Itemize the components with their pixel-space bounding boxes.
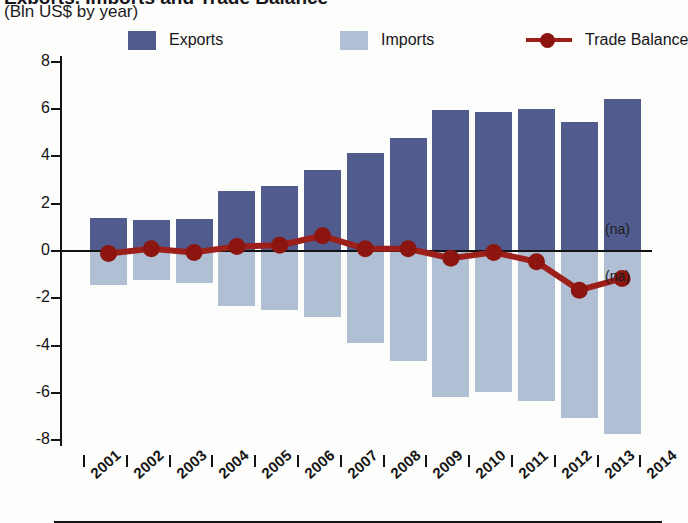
trade-balance-line-layer xyxy=(60,56,660,456)
y-axis-tick-label: 6 xyxy=(12,102,50,114)
x-axis: 2001200220032004200520062007200820092010… xyxy=(54,455,662,506)
legend-item-imports[interactable]: Imports xyxy=(340,28,434,52)
y-axis-tick xyxy=(51,392,60,394)
x-axis-tick xyxy=(425,455,427,467)
trade-balance-point-2005 xyxy=(271,237,288,254)
trade-balance-point-2001 xyxy=(100,245,117,262)
x-axis-tick xyxy=(383,455,385,467)
trade-balance-point-2007 xyxy=(357,240,374,257)
y-axis-tick-label: -4 xyxy=(12,339,50,351)
legend-label: Trade Balance xyxy=(585,31,688,49)
legend-label: Imports xyxy=(381,31,434,49)
square-swatch-icon xyxy=(128,31,156,50)
y-axis-tick-label: 0 xyxy=(12,244,50,256)
chart-legend: ExportsImportsTrade Balance xyxy=(128,28,658,52)
square-swatch-icon xyxy=(340,31,368,50)
x-axis-tick xyxy=(211,455,213,467)
y-axis-tick-label: 4 xyxy=(12,149,50,161)
y-axis-tick xyxy=(51,203,60,205)
y-axis-tick xyxy=(51,61,60,63)
trade-balance-point-2011 xyxy=(528,253,545,270)
y-axis-tick xyxy=(51,155,60,157)
x-axis-tick xyxy=(169,455,171,467)
trade-balance-point-2004 xyxy=(228,238,245,255)
y-axis-tick-label: -8 xyxy=(12,433,50,445)
na-imports: (na) xyxy=(605,268,630,284)
plot-area: 86420-2-4-6-8(na)(na) xyxy=(60,56,596,446)
trade-balance-point-2010 xyxy=(485,244,502,261)
trade-balance-point-2002 xyxy=(143,240,160,257)
x-axis-tick xyxy=(254,455,256,467)
x-axis-tick xyxy=(554,455,556,467)
trade-balance-point-2003 xyxy=(186,244,203,261)
y-axis-tick xyxy=(51,108,60,110)
x-axis-tick xyxy=(126,455,128,467)
x-axis-tick xyxy=(511,455,513,467)
chart-subtitle: (Bln US$ by year) xyxy=(4,2,138,22)
x-axis-tick xyxy=(639,455,641,467)
y-axis-tick-label: 8 xyxy=(12,55,50,67)
x-axis-tick xyxy=(297,455,299,467)
legend-item-exports[interactable]: Exports xyxy=(128,28,223,52)
y-axis-tick-label: -2 xyxy=(12,291,50,303)
trade-balance-point-2008 xyxy=(400,240,417,257)
trade-balance-point-2009 xyxy=(442,250,459,267)
line-marker-icon xyxy=(526,28,572,52)
y-axis-tick-label: 2 xyxy=(12,197,50,209)
na-exports: (na) xyxy=(605,221,630,237)
x-axis-tick xyxy=(597,455,599,467)
trade-balance-point-2006 xyxy=(314,227,331,244)
legend-label: Exports xyxy=(169,31,223,49)
trade-balance-point-2012 xyxy=(571,282,588,299)
x-axis-tick xyxy=(468,455,470,467)
x-axis-tick xyxy=(83,455,85,467)
y-axis-tick-label: -6 xyxy=(12,386,50,398)
y-axis-tick xyxy=(51,439,60,441)
y-axis-tick xyxy=(51,345,60,347)
y-axis-tick xyxy=(51,250,60,252)
y-axis-tick xyxy=(51,297,60,299)
legend-item-trade-balance[interactable]: Trade Balance xyxy=(526,28,688,52)
x-axis-tick xyxy=(340,455,342,467)
